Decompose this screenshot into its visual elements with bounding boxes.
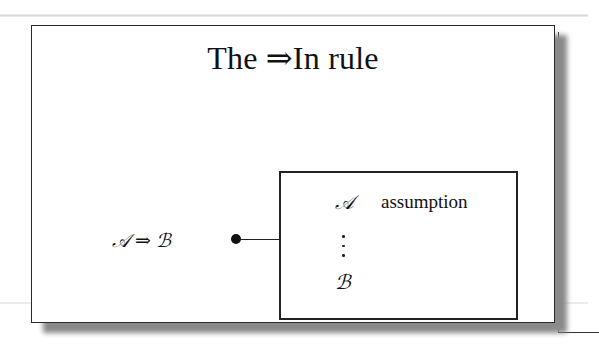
scan-artifact-line [0,14,588,17]
conclusion-formula: ℬ [335,270,351,294]
subproof-box: 𝒜 assumption ℬ [279,171,518,320]
implies-symbol: ⇒ [135,230,151,251]
assumption-label: assumption [381,191,468,213]
slide-title: The ⇒In rule [32,39,554,77]
consequent: ℬ [156,230,171,251]
conditional-formula: 𝒜⇒ℬ [112,229,171,252]
vertical-ellipsis-icon [342,235,346,264]
antecedent: 𝒜 [112,230,130,251]
slide-panel: The ⇒In rule 𝒜⇒ℬ 𝒜 assumption ℬ [31,25,555,323]
connector-line [239,239,279,240]
adjacent-slide-edge [558,32,599,333]
assumption-formula: 𝒜 [335,191,354,214]
